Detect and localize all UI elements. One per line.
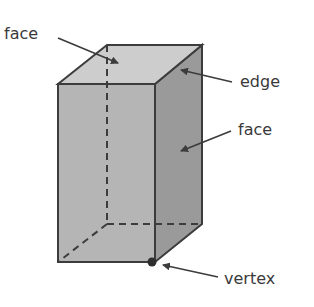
label-edge: edge (240, 74, 280, 90)
label-face-side: face (238, 122, 272, 138)
label-vertex: vertex (224, 271, 275, 287)
label-face-top: face (4, 26, 38, 42)
prism-diagram (0, 0, 314, 307)
vertex-dot (148, 258, 157, 267)
arrow-vertex (163, 265, 218, 277)
